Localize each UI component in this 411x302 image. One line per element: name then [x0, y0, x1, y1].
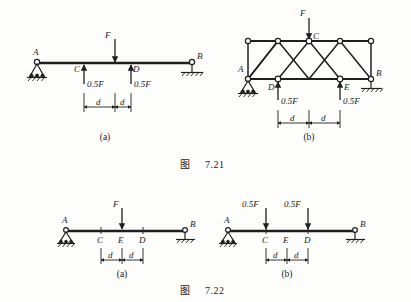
label-point-a: A	[32, 47, 39, 57]
figure-sheet: A B F C 0.5F	[0, 0, 411, 302]
force-label-half-f-c: 0.5F	[87, 79, 104, 89]
panel-sublabel-a-722: (a)	[117, 269, 128, 280]
panel-sublabel-b: (b)	[303, 132, 314, 143]
dimension-label-d-1: d	[96, 97, 101, 107]
label-point-d: D	[132, 64, 140, 74]
label-a-722a: A	[61, 215, 68, 225]
panel-sublabel-a: (a)	[100, 132, 111, 143]
dimension-chain-722a: d d	[101, 248, 143, 264]
figure-caption-7-22: 图 7.22	[180, 285, 225, 296]
dimension-label-d-2-722b: d	[294, 250, 299, 260]
truss-web-members	[248, 41, 371, 79]
truss-force-label-half-f-e: 0.5F	[343, 96, 360, 106]
panel-7-21-a: A B F C 0.5F	[27, 30, 203, 143]
dimension-label-d-1-722b: d	[273, 250, 278, 260]
truss-label-a: A	[237, 64, 244, 74]
dimension-label-d-2-722a: d	[129, 250, 134, 260]
truss-label-d: D	[267, 82, 275, 92]
truss-label-e: E	[343, 82, 350, 92]
label-e-722a: E	[117, 235, 124, 245]
truss-dimension-label-d-1: d	[290, 113, 295, 123]
label-b-722b: B	[360, 219, 366, 229]
figure-caption-7-21: 图 7.21	[180, 159, 225, 170]
label-point-c: C	[74, 64, 81, 74]
force-label-half-f-d: 0.5F	[134, 79, 151, 89]
label-c-722a: C	[97, 235, 104, 245]
dimension-chain-722b: d d	[266, 248, 308, 264]
label-d-722b: D	[303, 235, 311, 245]
caption-word-fig-722: 图	[180, 285, 191, 296]
caption-number-721: 7.21	[205, 159, 225, 170]
label-a-722b: A	[223, 215, 230, 225]
truss-support-b-roller	[361, 81, 383, 92]
dimension-label-d-2: d	[120, 97, 125, 107]
force-label-f-722a: F	[112, 199, 119, 209]
panel-sublabel-b-722: (b)	[281, 269, 292, 280]
force-label-f: F	[104, 30, 111, 40]
figures-svg: A B F C 0.5F	[0, 0, 411, 302]
truss-support-a-pin	[238, 81, 258, 97]
truss-label-c: C	[313, 31, 320, 41]
label-point-b: B	[197, 51, 203, 61]
truss-label-b: B	[376, 68, 382, 78]
dimension-label-d-1-722a: d	[108, 250, 113, 260]
panel-7-22-a: A B C E D	[57, 199, 196, 280]
label-b-722a: B	[190, 219, 196, 229]
truss-force-label-f: F	[299, 8, 306, 18]
caption-number-722: 7.22	[205, 285, 225, 296]
force-label-half-f-d-722b: 0.5F	[284, 199, 301, 209]
label-e-722b: E	[282, 235, 289, 245]
panel-7-22-b: A B C E D	[219, 199, 366, 280]
truss-dimension-chain: d d	[278, 110, 340, 128]
caption-word-fig-721: 图	[180, 159, 191, 170]
truss-dimension-label-d-2: d	[321, 113, 326, 123]
truss-force-label-half-f-d: 0.5F	[281, 96, 298, 106]
force-label-half-f-c-722b: 0.5F	[242, 199, 259, 209]
label-c-722b: C	[262, 235, 269, 245]
dimension-chain: d d	[84, 93, 131, 112]
label-d-722a: D	[138, 235, 146, 245]
panel-7-21-b: A C D E B	[237, 8, 383, 143]
